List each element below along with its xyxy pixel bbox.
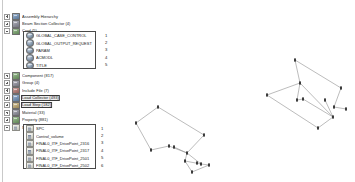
wireframe-node (302, 97, 304, 100)
wireframe-node (191, 170, 193, 173)
set-entity-icon (26, 132, 34, 139)
tree-item-label: Include File (7) (22, 89, 49, 93)
left-wireframe-model (128, 66, 228, 178)
tree-item-material[interactable]: Material (33) (4, 109, 124, 116)
expand-toggle-icon[interactable] (4, 73, 10, 79)
wireframe-node (340, 86, 342, 89)
tree-item-property[interactable]: Property (881) (4, 116, 124, 123)
expand-toggle-icon[interactable] (4, 14, 10, 20)
expand-toggle-icon[interactable] (4, 95, 10, 101)
set-list-item-label: FINAL0_ITF_DrivePoint_2317 (36, 148, 89, 153)
set-list-item-label: FINAL0_ITF_DrivePoint_2316 (36, 141, 89, 146)
wireframe-node (294, 58, 296, 61)
tree-item-component[interactable]: Component (817) (4, 72, 124, 79)
wireframe-edge (297, 83, 300, 100)
expand-toggle-icon[interactable] (4, 102, 10, 108)
collapse-toggle-icon[interactable] (4, 28, 10, 34)
expand-toggle-icon[interactable] (4, 117, 10, 123)
tree-item-include-file[interactable]: Include File (7) (4, 87, 124, 94)
tree-item-label: Property (881) (22, 118, 48, 122)
wireframe-node (299, 81, 301, 84)
set-item-number: 4 (101, 148, 103, 153)
wireframe-edge (334, 88, 341, 107)
set-item-number: 5 (101, 155, 103, 160)
tree-item-label: Load Collector (493) (22, 96, 59, 100)
set-entity-icon (26, 162, 34, 169)
set-item-number: 2 (101, 133, 103, 138)
set-list-item-label: SPC (36, 126, 44, 131)
card-list-item-label: GLOBAL_CASE_CONTROL (36, 33, 87, 38)
wireframe-node (208, 163, 210, 166)
set-item-number: 6 (101, 163, 103, 168)
card-list-item[interactable]: TITLE (24, 62, 95, 69)
wireframe-node (184, 159, 186, 162)
wireframe-edge (187, 135, 204, 153)
card-icon (12, 28, 20, 35)
wireframe-edge (136, 123, 151, 150)
expand-toggle-icon[interactable] (4, 21, 10, 27)
wireframe-edge (187, 153, 201, 164)
wireframe-node (186, 151, 188, 154)
card-item-number: 1 (105, 33, 107, 38)
expand-toggle-icon[interactable] (4, 110, 10, 116)
expand-toggle-icon[interactable] (4, 80, 10, 86)
card-list-item[interactable]: PARAM (24, 47, 95, 54)
card-entity-icon (26, 62, 34, 69)
wireframe-edge (201, 164, 209, 165)
set-list-item-label: FINAL0_ITF_DrivePoint_2501 (36, 156, 89, 161)
material-icon (12, 109, 20, 116)
wireframe-edge (151, 146, 169, 150)
card-list-item-label: ACMODL (36, 55, 53, 60)
tree-item-label: Beam Section Collector (4) (22, 22, 70, 26)
set-list-item[interactable]: FINAL0_ITF_DrivePoint_2316 (24, 140, 95, 147)
set-entity-icon (26, 147, 34, 154)
expand-toggle-icon[interactable] (4, 88, 10, 94)
wireframe-node (266, 93, 268, 96)
property-icon (12, 116, 20, 123)
card-entity-icon (26, 47, 34, 54)
card-list-item-label: PARAM (36, 48, 50, 53)
wireframe-node (200, 162, 202, 165)
left-wireframe-canvas (128, 66, 228, 178)
wireframe-edge (136, 107, 158, 123)
set-list-item[interactable]: Control_volume (24, 132, 95, 139)
wireframe-edge (174, 147, 187, 153)
card-list-item-label: TITLE (36, 63, 47, 68)
wireframe-edge (185, 161, 201, 164)
include-file-icon (12, 87, 20, 94)
card-list-item[interactable]: ACMODL (24, 54, 95, 61)
component-icon (12, 72, 20, 79)
right-wireframe-canvas (245, 58, 355, 138)
wireframe-node (333, 105, 335, 108)
wireframe-edge (192, 165, 209, 172)
set-item-number: 1 (101, 126, 103, 131)
wireframe-node (173, 145, 175, 148)
collapse-toggle-icon[interactable] (4, 125, 10, 131)
tree-item-label: Material (33) (22, 111, 45, 115)
set-list-item[interactable]: FINAL0_ITF_DrivePoint_2501 (24, 155, 95, 162)
card-list-item[interactable]: GLOBAL_OUTPUT_REQUEST (24, 39, 95, 46)
tree-item-beam-section-collector[interactable]: Beam Section Collector (4) (4, 20, 124, 27)
card-list-item-label: GLOBAL_OUTPUT_REQUEST (36, 41, 92, 46)
panel-divider (2, 0, 3, 182)
tree-item-load-collector[interactable]: Load Collector (493) (4, 94, 124, 101)
set-children-callout: SPC Control_volume FINAL0_ITF_DrivePoint… (23, 124, 96, 169)
set-item-number: 3 (101, 140, 103, 145)
tree-item-group[interactable]: Group (4) (4, 80, 124, 87)
card-item-number: 4 (105, 55, 107, 60)
wireframe-edge (158, 107, 204, 135)
tree-item-assembly-hierarchy[interactable]: Assembly Hierarchy (4, 13, 124, 20)
tree-item-load-step[interactable]: Load Step (182) (4, 102, 124, 109)
set-entity-icon (26, 155, 34, 162)
wireframe-node (324, 98, 326, 101)
wireframe-node (332, 115, 334, 118)
assembly-icon (12, 13, 20, 20)
wireframe-node (135, 121, 137, 124)
tree-item-label: Group (4) (22, 81, 39, 85)
set-list-item[interactable]: FINAL0_ITF_DrivePoint_2317 (24, 147, 95, 154)
card-list-item[interactable]: GLOBAL_CASE_CONTROL (24, 32, 95, 39)
wireframe-edge (185, 161, 192, 172)
wireframe-edge (295, 60, 341, 88)
set-list-item[interactable]: SPC (24, 125, 95, 132)
set-list-item[interactable]: FINAL0_ITF_DrivePoint_2502 (24, 162, 95, 169)
